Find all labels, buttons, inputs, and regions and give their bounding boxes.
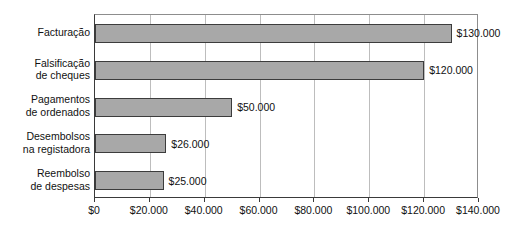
x-tick-mark — [423, 198, 424, 202]
x-axis: $0$20.000$40.000$60.000$80.000$100.000$1… — [94, 198, 478, 228]
x-tick-label: $20.000 — [130, 204, 168, 216]
bar-value-label: $25.000 — [164, 175, 207, 187]
bar-chart: FacturaçãoFalsificação de chequesPagamen… — [0, 0, 520, 245]
bar[interactable] — [95, 61, 424, 80]
x-tick-label: $100.000 — [346, 204, 390, 216]
bar[interactable] — [95, 171, 164, 190]
category-label-slot: Desembolsos na registadora — [0, 124, 90, 161]
x-tick-mark — [149, 198, 150, 202]
category-label: Desembolsos na registadora — [2, 130, 90, 155]
bar[interactable] — [95, 24, 452, 43]
bar-value-label: $130.000 — [452, 27, 501, 39]
bar-row: $130.000 — [95, 15, 477, 52]
category-label: Falsificação de cheques — [2, 57, 90, 82]
x-tick-mark — [368, 198, 369, 202]
x-tick-label: $80.000 — [294, 204, 332, 216]
category-label-slot: Falsificação de cheques — [0, 51, 90, 88]
x-tick-label: $140.000 — [456, 204, 500, 216]
category-label: Reembolso de despesas — [2, 167, 90, 192]
category-label-slot: Facturação — [0, 14, 90, 51]
bar-row: $25.000 — [95, 162, 477, 199]
x-tick-mark — [259, 198, 260, 202]
bar-row: $26.000 — [95, 125, 477, 162]
bar-row: $50.000 — [95, 89, 477, 126]
x-tick-label: $0 — [88, 204, 100, 216]
bar-value-label: $26.000 — [166, 138, 209, 150]
bar[interactable] — [95, 134, 166, 153]
x-tick-label: $120.000 — [401, 204, 445, 216]
bar[interactable] — [95, 98, 232, 117]
category-label-slot: Pagamentos de ordenados — [0, 88, 90, 125]
x-tick-label: $40.000 — [185, 204, 223, 216]
category-label: Facturação — [2, 26, 90, 39]
x-tick-mark — [478, 198, 479, 202]
bar-row: $120.000 — [95, 52, 477, 89]
category-axis: FacturaçãoFalsificação de chequesPagamen… — [0, 14, 90, 198]
bar-value-label: $50.000 — [232, 101, 275, 113]
plot-area: $130.000$120.000$50.000$26.000$25.000 — [94, 14, 478, 198]
bar-value-label: $120.000 — [424, 64, 473, 76]
x-tick-mark — [313, 198, 314, 202]
x-tick-label: $60.000 — [240, 204, 278, 216]
category-label: Pagamentos de ordenados — [2, 93, 90, 118]
x-tick-mark — [204, 198, 205, 202]
x-tick-mark — [94, 198, 95, 202]
category-label-slot: Reembolso de despesas — [0, 161, 90, 198]
